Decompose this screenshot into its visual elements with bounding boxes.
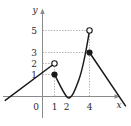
open-circle-1-2 <box>52 61 57 66</box>
y-tick-label-3: 3 <box>31 48 37 58</box>
y-tick-label-1: 1 <box>31 70 37 80</box>
plot-svg: 5 3 2 1 0 1 2 4 y x <box>0 0 131 126</box>
function-graph-figure: 5 3 2 1 0 1 2 4 y x <box>0 0 131 126</box>
filled-dot-4-3 <box>86 49 92 55</box>
open-circle-4-5 <box>87 28 92 33</box>
x-tick-label-4: 4 <box>87 102 93 112</box>
segment-2-curve <box>55 31 90 98</box>
segment-3-line <box>90 53 126 106</box>
guide-lines <box>43 31 90 97</box>
function-curve <box>5 31 125 106</box>
axes <box>3 10 120 118</box>
x-tick-label-1: 1 <box>52 102 58 112</box>
y-tick-label-2: 2 <box>31 59 37 69</box>
y-tick-label-5: 5 <box>31 26 37 36</box>
filled-dot-1-1 <box>51 71 57 77</box>
y-axis-arrow-icon <box>40 9 44 15</box>
x-tick-label-0: 0 <box>33 102 39 112</box>
segment-1-line <box>5 64 54 101</box>
y-axis-label: y <box>31 5 38 15</box>
x-tick-label-2: 2 <box>64 102 70 112</box>
x-axis-label: x <box>116 100 121 110</box>
